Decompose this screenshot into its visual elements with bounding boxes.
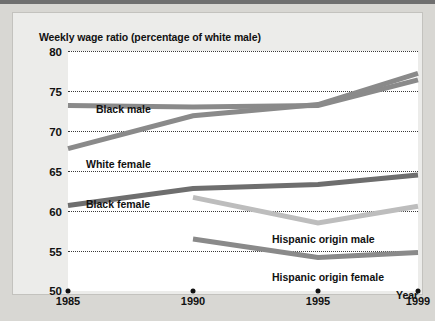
x-tick-label-1995: 1995 [306,295,330,307]
y-tick-label-60: 60 [49,206,62,218]
y-tick-label-70: 70 [49,126,62,138]
x-tick-label-1985: 1985 [56,295,80,307]
x-tick-dot-1985 [66,289,71,294]
series-label-hispanic-origin-female: Hispanic origin female [272,271,384,283]
x-tick-label-1990: 1990 [181,295,205,307]
series-label-black-female: Black female [86,198,150,210]
x-tick-dot-1995 [316,289,321,294]
series-line-hispanic-origin-male [193,197,418,223]
chart-figure: Weekly wage ratio (percentage of white m… [0,0,435,321]
x-tick-dot-1990 [191,289,196,294]
series-label-hispanic-origin-male: Hispanic origin male [272,233,375,245]
y-tick-label-80: 80 [49,46,62,58]
y-tick-label-65: 65 [49,166,62,178]
x-axis-title: Year [396,289,418,301]
chart-card: Weekly wage ratio (percentage of white m… [12,12,423,295]
series-label-white-female: White female [86,158,151,170]
series-lines [68,51,418,291]
chart-title: Weekly wage ratio (percentage of white m… [39,31,261,43]
y-tick-label-55: 55 [49,246,62,258]
plot-area: 80 75 70 65 60 55 50 19851990199 [68,51,418,291]
top-edge-bar [0,0,435,4]
series-label-black-male: Black male [96,103,151,115]
y-tick-label-75: 75 [49,86,62,98]
